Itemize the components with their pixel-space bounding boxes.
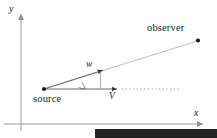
w-vector-label: w [86,60,92,70]
observer-point [196,38,200,42]
vector-diagram-figure: y x source observer w V [0,0,217,138]
y-axis-label: y [9,4,13,14]
source-point [42,87,46,91]
source-label: source [33,94,61,105]
v-vector-label: V [109,92,115,102]
angle-arc-mark [82,82,86,89]
v-vector-arrow-accent-icon [109,92,217,138]
observer-label: observer [147,23,184,34]
